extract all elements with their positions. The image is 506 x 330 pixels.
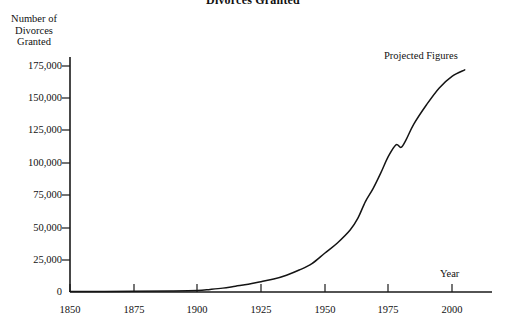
plot-area bbox=[0, 0, 506, 330]
chart-container: Divorces Granted Number of Divorces Gran… bbox=[0, 0, 506, 330]
data-series-divorces-granted bbox=[70, 70, 465, 292]
